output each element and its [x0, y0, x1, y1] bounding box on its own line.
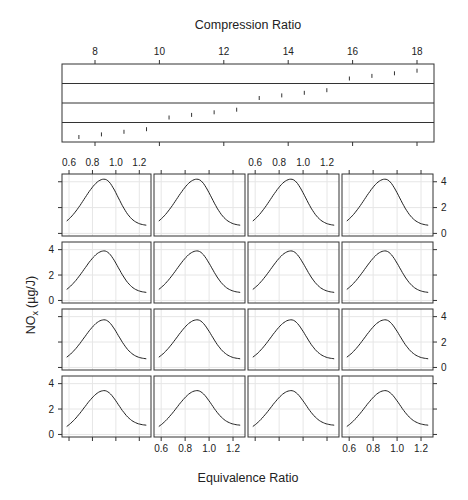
- y-tick-label-left: 2: [48, 404, 54, 415]
- panel-frame: [342, 174, 433, 236]
- strip-tick-label: 14: [283, 46, 295, 57]
- panel-frame: [342, 309, 433, 370]
- panel-r1-c3: 0.60.81.01.2: [248, 157, 339, 236]
- panel-r2-c3: [248, 242, 339, 303]
- svg-text:NOx(µg/J): NOx(µg/J): [24, 276, 40, 334]
- x-tick-label-top: 0.8: [272, 157, 286, 168]
- nox-curve: [67, 251, 147, 293]
- nox-curve: [67, 179, 147, 225]
- panel-r1-c1: 0.60.81.01.2: [58, 157, 151, 236]
- strip-tick-label: 8: [92, 46, 98, 57]
- panel-frame: [154, 309, 245, 370]
- nox-curve: [347, 320, 428, 359]
- panel-r2-c2: [154, 242, 245, 303]
- x-tick-label-bottom: 0.6: [154, 443, 168, 454]
- strip-tick-label: 18: [411, 46, 423, 57]
- strip-tick-label: 10: [154, 46, 166, 57]
- panel-frame: [248, 174, 339, 236]
- panel-r1-c2: [154, 170, 245, 236]
- strip-tick-label: 16: [347, 46, 359, 57]
- strip-tick-label: 12: [218, 46, 230, 57]
- panel-r4-c2: 0.60.81.01.2: [154, 376, 245, 454]
- x-tick-label-top: 0.8: [85, 157, 99, 168]
- panel-frame: [342, 376, 433, 437]
- panel-frame: [154, 174, 245, 236]
- nox-curve: [159, 179, 240, 225]
- chart-title: Compression Ratio: [195, 18, 301, 32]
- x-axis-label: Equivalence Ratio: [198, 471, 299, 485]
- y-tick-label-left: 0: [48, 295, 54, 306]
- y-tick-label-right: 0: [441, 362, 447, 373]
- nox-curve: [67, 320, 147, 359]
- x-tick-label-bottom: 1.2: [414, 443, 428, 454]
- panel-r4-c3: [248, 376, 339, 441]
- y-axis-label: NOx(µg/J): [24, 276, 40, 334]
- panel-r3-c3: [248, 309, 339, 370]
- chart-canvas: Compression Ratio 81012141618 0.60.81.01…: [0, 0, 468, 500]
- y-tick-label-left: 2: [48, 270, 54, 281]
- panel-r1-c4: 024: [342, 170, 447, 239]
- panel-frame: [62, 309, 151, 370]
- panel-frame: [248, 309, 339, 370]
- x-tick-label-top: 1.0: [109, 157, 123, 168]
- compression-ratio-strip-panel: 81012141618: [62, 46, 434, 146]
- nox-curve: [253, 251, 334, 293]
- panel-frame: [62, 376, 151, 437]
- nox-curve: [159, 251, 240, 293]
- panel-r3-c2: [154, 309, 245, 370]
- panel-r2-c4: [342, 242, 437, 303]
- panel-r4-c4: 0.60.81.01.2: [342, 376, 437, 454]
- trellis-panel-grid: 0.60.81.01.20.60.81.01.20240240240240.60…: [48, 157, 447, 454]
- y-tick-label-left: 0: [48, 429, 54, 440]
- x-tick-label-bottom: 0.6: [342, 443, 356, 454]
- x-tick-label-bottom: 0.8: [178, 443, 192, 454]
- x-tick-label-bottom: 0.8: [366, 443, 380, 454]
- y-tick-label-right: 0: [441, 228, 447, 239]
- x-tick-label-top: 1.2: [132, 157, 146, 168]
- nox-curve: [253, 320, 334, 359]
- y-axis-label-unit: (µg/J): [24, 276, 38, 308]
- x-tick-label-bottom: 1.0: [202, 443, 216, 454]
- panel-r2-c1: 024: [48, 242, 151, 306]
- nox-curve: [347, 179, 428, 225]
- y-tick-label-left: 4: [48, 378, 54, 389]
- panel-frame: [62, 174, 151, 236]
- x-tick-label-bottom: 1.0: [390, 443, 404, 454]
- nox-curve: [159, 320, 240, 359]
- nox-curve: [253, 179, 334, 225]
- x-tick-label-top: 1.0: [296, 157, 310, 168]
- x-tick-label-top: 1.2: [320, 157, 334, 168]
- y-tick-label-right: 2: [441, 337, 447, 348]
- y-tick-label-right: 2: [441, 202, 447, 213]
- panel-frame: [248, 376, 339, 437]
- x-tick-label-top: 0.6: [248, 157, 262, 168]
- panel-r4-c1: 024: [48, 376, 151, 441]
- y-axis-label-sub: x: [30, 310, 40, 315]
- x-tick-label-top: 0.6: [62, 157, 76, 168]
- y-tick-label-left: 4: [48, 244, 54, 255]
- y-tick-label-right: 4: [441, 176, 447, 187]
- x-tick-label-bottom: 1.2: [226, 443, 240, 454]
- panel-r3-c4: 024: [342, 309, 447, 373]
- nox-curve: [347, 251, 428, 293]
- y-tick-label-right: 4: [441, 311, 447, 322]
- panel-frame: [154, 376, 245, 437]
- y-axis-label-main: NO: [24, 315, 38, 334]
- panel-r3-c1: [58, 309, 151, 370]
